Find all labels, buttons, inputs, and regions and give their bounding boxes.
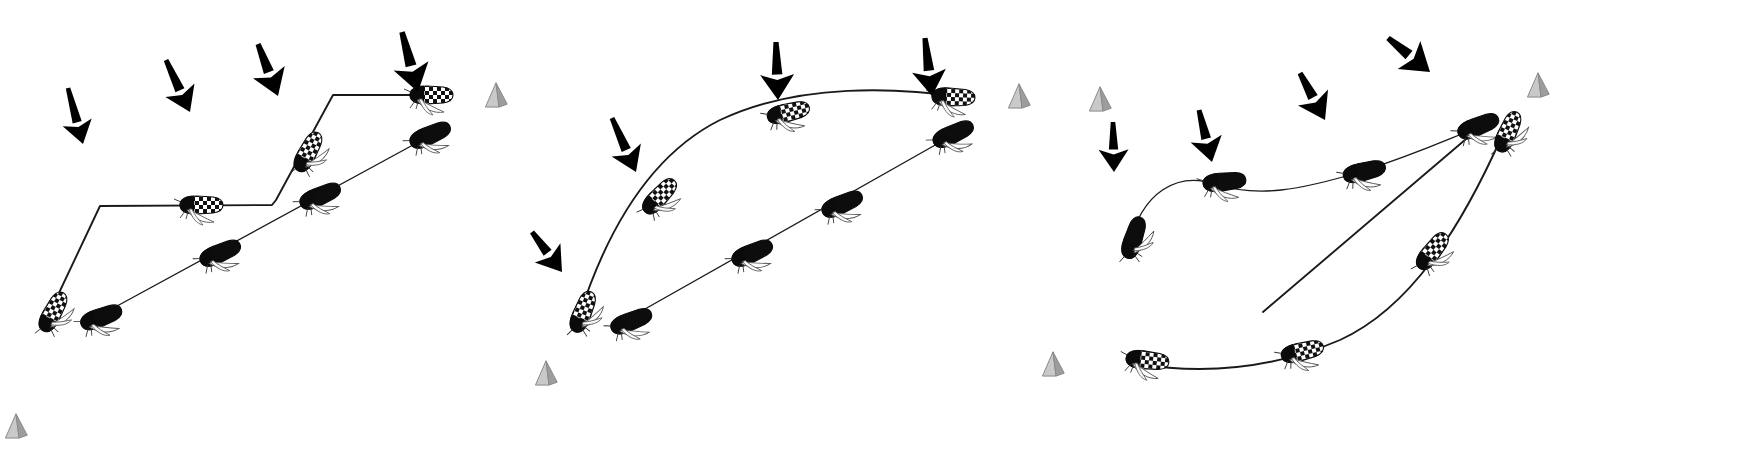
figure-canvas	[0, 0, 1756, 460]
flight-trajectory-figure	[0, 0, 1756, 460]
